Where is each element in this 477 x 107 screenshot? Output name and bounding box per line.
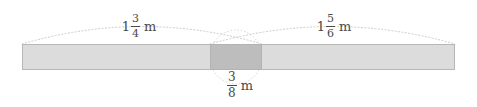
left-whole-number: 1 <box>122 20 131 33</box>
overlap-segment <box>211 45 262 70</box>
overlap-measure-label: 3 8 m <box>212 71 268 99</box>
right-whole-number: 1 <box>317 20 326 33</box>
fraction-bar-diagram: 1 3 4 m 1 5 6 m 3 8 m <box>0 0 477 107</box>
overlap-denominator: 8 <box>227 87 237 99</box>
overlap-fraction: 3 8 <box>227 71 237 98</box>
left-measure-label: 1 3 4 m <box>108 13 170 39</box>
left-unit: m <box>140 20 156 33</box>
right-unit: m <box>335 20 351 33</box>
left-fraction: 3 4 <box>131 13 140 38</box>
right-denominator: 6 <box>326 28 335 39</box>
left-denominator: 4 <box>131 28 140 39</box>
right-fraction: 5 6 <box>326 13 335 38</box>
overlap-numerator: 3 <box>227 71 237 83</box>
right-numerator: 5 <box>326 13 335 24</box>
overlap-unit: m <box>237 79 253 92</box>
left-numerator: 3 <box>131 13 140 24</box>
right-measure-label: 1 5 6 m <box>303 13 365 39</box>
